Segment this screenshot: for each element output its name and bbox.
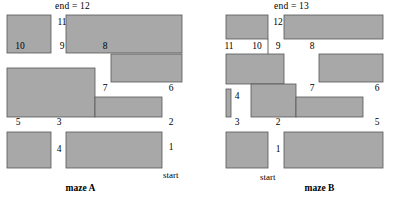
maze-b-step-5: 5 — [371, 117, 383, 127]
wall-block — [66, 15, 182, 53]
wall-block — [296, 97, 363, 117]
maze-a-step-5: 5 — [12, 117, 24, 127]
wall-block — [226, 132, 268, 168]
maze-b-caption: maze B — [219, 183, 402, 193]
maze-a-step-10: 10 — [14, 41, 26, 51]
maze-b-step-10: 10 — [251, 41, 263, 51]
wall-block — [7, 132, 51, 168]
wall-block — [111, 54, 182, 82]
maze-b-step-9: 9 — [272, 41, 284, 51]
maze-b-step-8: 8 — [306, 41, 318, 51]
wall-block — [226, 54, 284, 84]
maze-b-panel: end = 13 — [201, 0, 402, 213]
wall-block — [251, 84, 296, 117]
maze-a-step-7: 7 — [99, 83, 111, 93]
wall-block — [226, 15, 268, 39]
maze-a-caption: maze A — [0, 183, 181, 193]
maze-a-step-11: 11 — [56, 17, 68, 27]
maze-a-step-3: 3 — [53, 117, 65, 127]
maze-b-step-4: 4 — [231, 91, 243, 101]
maze-a-step-4: 4 — [53, 144, 65, 154]
wall-block — [284, 15, 383, 39]
maze-b-start-label: start — [260, 172, 276, 182]
maze-a-step-2: 2 — [165, 117, 177, 127]
wall-block — [7, 68, 95, 117]
maze-a-step-6: 6 — [165, 83, 177, 93]
maze-b-step-1: 1 — [272, 144, 284, 154]
wall-block — [319, 54, 383, 82]
maze-b-step-12: 12 — [272, 17, 284, 27]
maze-b-step-11: 11 — [223, 41, 235, 51]
maze-a-start-label: start — [163, 170, 179, 180]
maze-a-diagram — [0, 0, 201, 213]
maze-figure: end = 12 maze A end = — [0, 0, 402, 213]
maze-b-step-7: 7 — [306, 83, 318, 93]
wall-block — [284, 132, 383, 168]
maze-a-step-8: 8 — [99, 41, 111, 51]
maze-a-panel: end = 12 maze A — [0, 0, 201, 213]
maze-b-step-2: 2 — [272, 117, 284, 127]
maze-b-step-6: 6 — [371, 83, 383, 93]
maze-b-step-3: 3 — [231, 117, 243, 127]
maze-a-step-1: 1 — [165, 142, 177, 152]
wall-block — [95, 97, 162, 117]
wall-block — [66, 132, 162, 168]
maze-a-step-9: 9 — [56, 41, 68, 51]
maze-b-diagram — [201, 0, 402, 213]
